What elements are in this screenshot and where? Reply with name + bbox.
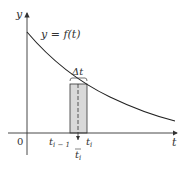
sample-label: ti <box>75 149 81 162</box>
origin-label: 0 <box>17 136 23 147</box>
right-tick-label: ti <box>86 136 92 149</box>
curve-f <box>27 32 175 121</box>
sample-arrow-icon <box>76 136 80 140</box>
curve-label: y = f(t) <box>40 28 81 41</box>
delta-t-label: Δt <box>71 66 84 77</box>
left-tick-label: ti − 1 <box>49 136 70 149</box>
approximation-rectangle <box>70 84 87 133</box>
x-axis-label: t <box>172 136 177 149</box>
y-axis-label: y <box>15 8 23 21</box>
riemann-diagram: y t 0 y = f(t) Δt ti − 1 ti ti <box>0 0 185 169</box>
